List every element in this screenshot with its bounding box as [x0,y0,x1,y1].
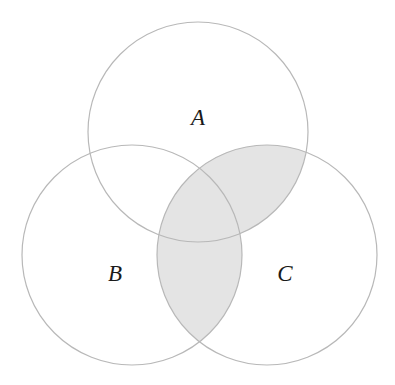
set-b-label: B [108,261,122,286]
set-c-label: C [277,261,293,286]
venn-diagram: A B C [0,0,395,385]
shaded-region [22,22,308,365]
set-a-label: A [189,105,206,130]
